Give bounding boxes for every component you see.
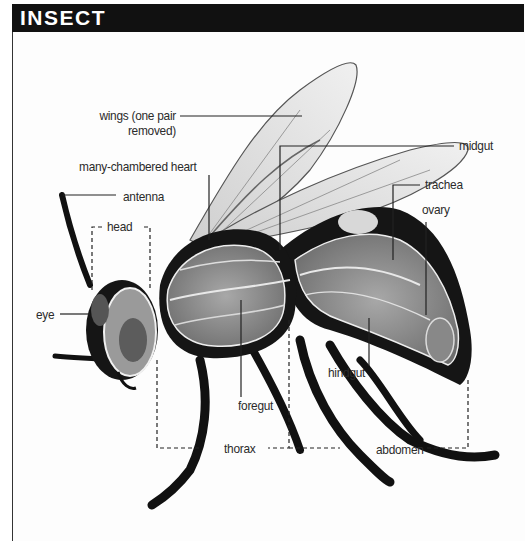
label-midgut: midgut	[459, 138, 493, 153]
label-many-chambered-heart: many-chambered heart	[79, 159, 197, 174]
label-wings: wings (one pair removed)	[90, 108, 176, 138]
label-antenna: antenna	[123, 189, 164, 204]
label-wings-line2: removed)	[90, 123, 176, 138]
label-wings-line1: wings (one pair	[90, 108, 176, 123]
thorax-shape	[159, 229, 296, 358]
label-trachea: trachea	[425, 177, 463, 192]
head-shape	[86, 280, 158, 388]
label-head: head	[107, 219, 132, 234]
label-abdomen: abdomen	[376, 442, 424, 457]
label-eye: eye	[36, 307, 54, 322]
label-foregut: foregut	[238, 398, 273, 413]
label-ovary: ovary	[422, 202, 450, 217]
label-hindgut: hindgut	[328, 365, 365, 380]
antenna-shape	[62, 195, 90, 285]
label-thorax: thorax	[224, 441, 255, 456]
